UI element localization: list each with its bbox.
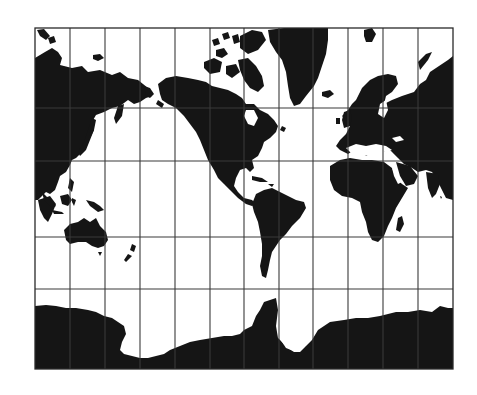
ireland xyxy=(336,118,340,124)
map-canvas xyxy=(0,0,477,395)
world-map xyxy=(0,0,477,395)
